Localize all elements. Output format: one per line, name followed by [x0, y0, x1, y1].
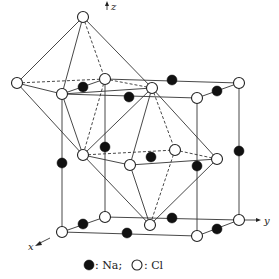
na-atom	[100, 142, 110, 152]
cl-legend-icon	[132, 260, 142, 270]
cl-atom	[147, 83, 158, 94]
cl-atom	[192, 231, 203, 242]
na-atom	[167, 213, 177, 223]
solid-edges	[17, 1, 261, 246]
cl-atom	[234, 78, 245, 89]
dashed-edges	[17, 17, 217, 225]
cl-atom	[125, 160, 136, 171]
cl-atoms	[12, 12, 245, 242]
cl-atom	[145, 220, 156, 231]
na-legend-label: : Na;	[95, 259, 122, 272]
na-atom	[124, 92, 134, 102]
na-atom	[146, 152, 156, 162]
na-atom	[78, 82, 88, 92]
x-axis-label: x	[28, 241, 34, 252]
na-atom	[234, 146, 244, 156]
na-atom	[122, 228, 132, 238]
cl-atom	[192, 93, 203, 104]
na-atom	[192, 161, 202, 171]
nacl-crystal-diagram: z y x : Na; : Cl	[0, 0, 279, 279]
cl-atom	[212, 154, 223, 165]
cl-atom	[78, 12, 89, 23]
na-legend-icon	[84, 260, 94, 270]
cl-atom	[100, 74, 111, 85]
cl-atom	[234, 215, 245, 226]
y-axis-label: y	[263, 215, 270, 226]
na-atom	[57, 158, 67, 168]
z-axis-label: z	[110, 1, 117, 12]
cl-atom	[57, 227, 68, 238]
cl-atom	[170, 145, 181, 156]
cl-atom	[12, 78, 23, 89]
na-atom	[78, 219, 88, 229]
na-atom	[212, 86, 222, 96]
cl-atom	[78, 150, 89, 161]
cl-atom	[57, 89, 68, 100]
na-atom	[167, 75, 177, 85]
na-atom	[212, 224, 222, 234]
cl-atom	[100, 212, 111, 223]
cl-legend-label: : Cl	[144, 259, 164, 272]
legend: : Na; : Cl	[84, 259, 164, 272]
